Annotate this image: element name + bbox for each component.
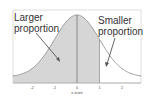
x-tick-label: -2 bbox=[30, 85, 34, 90]
x-tick-label: 0 bbox=[76, 85, 78, 90]
x-tick-label: 2 bbox=[121, 85, 123, 90]
annotation-larger-proportion: Larger proportion bbox=[14, 12, 59, 34]
x-axis-label: z-score bbox=[71, 91, 82, 95]
annotation-smaller-proportion: Smaller proportion bbox=[98, 15, 143, 37]
x-tick-label: -1 bbox=[53, 85, 57, 90]
x-tick-label: 1 bbox=[98, 85, 100, 90]
